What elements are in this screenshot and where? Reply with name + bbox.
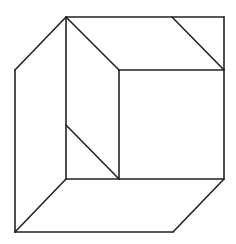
background (0, 0, 236, 244)
cube-line-drawing (0, 0, 236, 244)
